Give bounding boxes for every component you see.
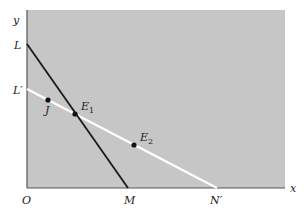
svg-text:E: E xyxy=(80,100,89,113)
x-axis-label: x xyxy=(290,182,297,195)
svg-text:E: E xyxy=(139,131,148,144)
svg-text:1: 1 xyxy=(89,106,94,115)
diagram-canvas: y x O L M L′ N′ J E 1 E 2 xyxy=(0,0,308,215)
point-e1 xyxy=(72,111,77,116)
point-j xyxy=(45,97,50,102)
point-e2 xyxy=(131,142,136,147)
svg-text:2: 2 xyxy=(148,137,153,146)
label-n-prime: N′ xyxy=(209,194,223,207)
label-m: M xyxy=(123,194,136,207)
origin-label: O xyxy=(22,194,31,207)
label-l: L xyxy=(13,39,21,52)
label-j: J xyxy=(43,104,50,117)
y-axis-label: y xyxy=(12,14,20,27)
label-l-prime: L′ xyxy=(12,84,23,97)
